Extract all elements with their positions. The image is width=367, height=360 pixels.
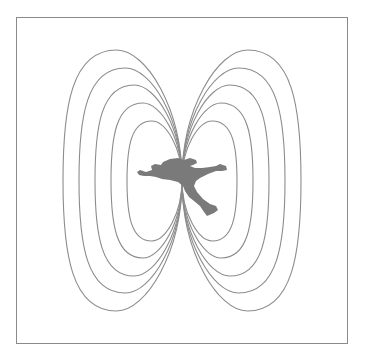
field-line-loop: [182, 50, 301, 311]
field-diagram: [0, 0, 367, 360]
diagram-canvas: Dipole field lines surrounding a falling…: [0, 0, 367, 360]
field-line-loop: [111, 103, 182, 258]
field-line-loop: [63, 50, 182, 311]
field-line-loop: [127, 121, 182, 241]
